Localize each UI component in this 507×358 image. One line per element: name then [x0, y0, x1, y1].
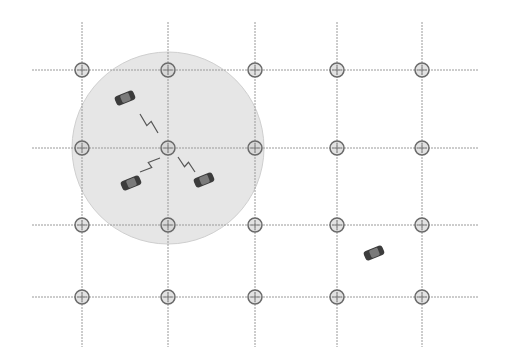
diagram-canvas [0, 0, 507, 358]
vanet-grid-diagram [0, 0, 507, 358]
car-icon [363, 245, 385, 262]
